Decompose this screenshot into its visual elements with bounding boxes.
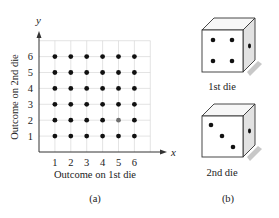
outcome-point — [100, 134, 105, 139]
outcome-point — [68, 54, 73, 59]
x-tick-label: 6 — [132, 157, 137, 168]
y-tick-label: 6 — [28, 51, 33, 62]
outcome-point — [132, 54, 137, 59]
outcome-point — [53, 86, 58, 91]
outcome-point — [68, 102, 73, 107]
outcome-point — [84, 102, 89, 107]
outcome-point — [100, 70, 105, 75]
outcome-point — [84, 54, 89, 59]
outcome-point — [132, 102, 137, 107]
outcome-point — [68, 70, 73, 75]
outcome-point — [116, 54, 121, 59]
outcome-point — [132, 70, 137, 75]
die-1-label: 1st die — [208, 81, 236, 92]
outcome-point — [53, 70, 58, 75]
x-axis-arrow-icon — [160, 150, 167, 155]
outcome-point — [84, 86, 89, 91]
y-tick-label: 2 — [28, 115, 33, 126]
caption-a: (a) — [89, 193, 101, 205]
outcome-point — [53, 134, 58, 139]
y-tick-label: 3 — [28, 99, 33, 110]
y-tick-label: 5 — [28, 67, 33, 78]
panel-b-dice: 1st die 2nd die (b) — [202, 18, 262, 205]
outcome-point — [100, 54, 105, 59]
die-2-icon — [202, 104, 262, 161]
panel-a-sample-space-grid: x y 123456 123456 Outcome on 1st die Out… — [9, 14, 176, 205]
outcome-point — [100, 118, 105, 123]
y-tick-labels: 123456 — [28, 51, 34, 141]
y-tick-label: 4 — [28, 83, 34, 94]
outcome-point — [100, 102, 105, 107]
outcome-point — [53, 118, 58, 123]
outcome-point — [116, 70, 121, 75]
y-axis-arrow-icon — [37, 31, 42, 38]
outcome-point — [100, 86, 105, 91]
y-axis-symbol: y — [35, 14, 41, 26]
x-tick-label: 3 — [84, 157, 89, 168]
outcome-point — [116, 134, 121, 139]
x-tick-labels: 123456 — [52, 157, 137, 168]
y-axis-label: Outcome on 2nd die — [9, 54, 20, 140]
outcome-point — [132, 118, 137, 123]
outcome-point — [116, 102, 121, 107]
x-tick-label: 4 — [100, 157, 106, 168]
x-axis-symbol: x — [170, 146, 176, 158]
outcome-points — [53, 54, 137, 138]
x-tick-label: 5 — [116, 157, 121, 168]
outcome-point — [84, 70, 89, 75]
die-1-icon — [202, 18, 262, 76]
figure: x y 123456 123456 Outcome on 1st die Out… — [0, 0, 279, 218]
outcome-point — [68, 134, 73, 139]
outcome-point — [84, 134, 89, 139]
outcome-point — [53, 102, 58, 107]
outcome-point — [132, 86, 137, 91]
outcome-point — [53, 54, 58, 59]
y-tick-label: 1 — [28, 131, 33, 142]
die-2-label: 2nd die — [206, 167, 238, 178]
caption-b: (b) — [222, 193, 235, 205]
outcome-point — [68, 86, 73, 91]
outcome-point — [132, 134, 137, 139]
outcome-point — [116, 86, 121, 91]
outcome-point — [84, 118, 89, 123]
x-tick-label: 2 — [68, 157, 73, 168]
x-axis-label: Outcome on 1st die — [54, 169, 136, 180]
x-tick-label: 1 — [52, 157, 57, 168]
outcome-point-highlighted — [116, 118, 121, 123]
outcome-point — [68, 118, 73, 123]
